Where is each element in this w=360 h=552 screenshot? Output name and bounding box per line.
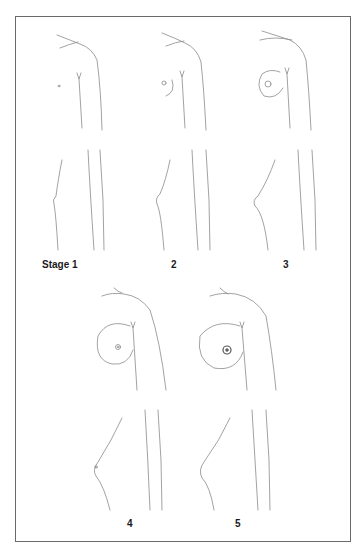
stage1-front-view [57, 35, 102, 130]
stage2-side-view [156, 150, 210, 250]
stage3-side-view [254, 150, 316, 250]
tanner-stages-illustration [0, 0, 360, 552]
stage2-front-view [162, 33, 206, 130]
stage4-side-view [94, 410, 162, 510]
stage-1-label: Stage 1 [42, 259, 78, 270]
stage-5-label: 5 [235, 518, 241, 529]
stage3-front-view [259, 31, 311, 130]
stage-2-label: 2 [171, 259, 177, 270]
stage5-front-view [199, 288, 276, 390]
stage-4-label: 4 [127, 518, 133, 529]
stage5-side-view [200, 410, 270, 510]
stage4-front-view [97, 288, 166, 390]
stage-3-label: 3 [283, 259, 289, 270]
stage1-side-view [53, 150, 104, 250]
